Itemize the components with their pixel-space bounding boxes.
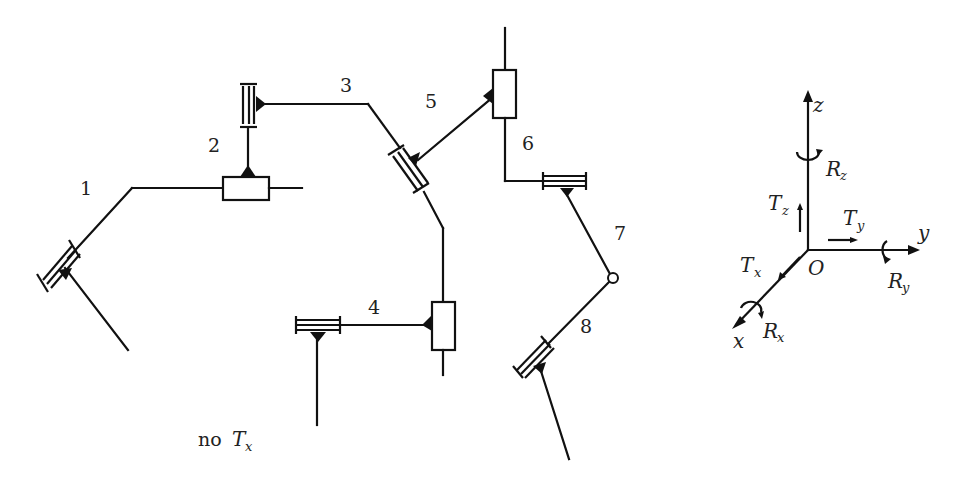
coordinate-axes: z y x O R z T z T y R y T x	[732, 90, 930, 353]
ry-symbol: R	[887, 269, 903, 293]
note-subscript: x	[245, 439, 253, 454]
joint-label-2: 2	[208, 134, 220, 156]
joint-label-8: 8	[580, 315, 592, 337]
x-axis-label: x	[733, 329, 744, 353]
kinematic-diagram: 1 2 3 5 6	[0, 0, 962, 485]
joint-8: 8	[513, 282, 609, 459]
tx-symbol: T	[740, 253, 755, 277]
svg-text:y: y	[856, 218, 865, 233]
joint-label-6: 6	[522, 132, 534, 154]
tz-symbol: T	[768, 191, 783, 215]
ty-symbol: T	[843, 206, 858, 230]
constraint-note: no T x	[198, 427, 253, 454]
joint-6: 6	[493, 28, 543, 181]
svg-text:z: z	[839, 168, 847, 183]
joint-label-7: 7	[614, 222, 626, 244]
y-axis-arrowhead	[908, 245, 920, 255]
z-axis-label: z	[812, 93, 824, 117]
joint-label-1: 1	[80, 177, 92, 199]
joint-label-3: 3	[340, 74, 352, 96]
joint-3: 3	[240, 74, 400, 148]
joint-label-4: 4	[368, 296, 380, 318]
rx-symbol: R	[762, 319, 778, 343]
tz-arrow	[797, 203, 803, 210]
ty-arrow	[850, 237, 858, 243]
y-axis-label: y	[917, 221, 930, 245]
joint-5: 5	[388, 88, 493, 302]
svg-text:x: x	[777, 330, 785, 345]
joint-label-5: 5	[425, 90, 437, 112]
joint-2: 2	[208, 128, 302, 200]
svg-text:z: z	[781, 203, 789, 218]
joint-4: 4	[296, 296, 455, 425]
joint-7: 7	[543, 172, 626, 283]
note-prefix: no	[198, 428, 222, 450]
svg-text:y: y	[901, 280, 910, 295]
origin-label: O	[808, 256, 824, 280]
rz-symbol: R	[825, 157, 841, 181]
svg-text:x: x	[754, 265, 762, 280]
z-axis-arrowhead	[803, 90, 813, 102]
joint-1: 1	[37, 177, 225, 350]
